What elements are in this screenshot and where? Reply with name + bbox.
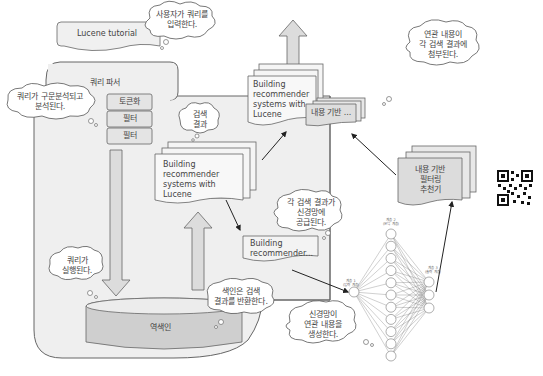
- callout-user-query: 사용자가 쿼리를 입력한다.: [152, 10, 212, 30]
- nn-node-layer-2: [386, 327, 396, 337]
- callout-net-generates: 신경망이 연관 내용을 생성한다.: [292, 310, 354, 340]
- recommender-label: 내용 기반 필터링 추천기: [398, 165, 462, 195]
- search-result-doc-text: Building recommender systems with Lucene: [163, 160, 219, 200]
- nn-node-layer-2: [386, 266, 396, 276]
- parser-step-filter-1: 필터: [107, 114, 152, 124]
- inverted-index-label: 역색인: [130, 323, 190, 333]
- nn-node-layer-2: [386, 339, 396, 349]
- parser-step-filter-2: 필터: [107, 131, 152, 141]
- nn-node-layer-2: [386, 241, 396, 251]
- nn-node-layer-1: [349, 287, 359, 297]
- layer-1-label: 계층 1 (입력 계층): [336, 279, 366, 287]
- enriched-doc-text: Building recommender systems with Lucene: [253, 80, 309, 120]
- callout-parsed: 쿼리가 구문분석되고 분석된다.: [10, 92, 90, 112]
- callout-fed: 각 검색 결과가 신경망에 공급된다.: [280, 198, 342, 228]
- nn-node-layer-2: [386, 278, 396, 288]
- nn-node-layer-3: [424, 290, 434, 300]
- callout-index-returns: 색인은 검색 결과를 반환한다.: [208, 287, 274, 307]
- nn-node-layer-3: [424, 277, 434, 287]
- attachment-label: 내용 기반 ...: [306, 108, 356, 118]
- query-input-text: Lucene tutorial: [57, 29, 157, 39]
- nn-node-layer-2: [386, 351, 396, 361]
- layer-3-label: 계층 3 (출력 계층): [418, 266, 448, 274]
- nn-node-layer-2: [386, 253, 396, 263]
- output-arrow: [279, 20, 307, 70]
- nn-node-layer-2: [386, 229, 396, 239]
- nn-node-layer-2: [386, 290, 396, 300]
- qr-code: [497, 170, 533, 206]
- nn-node-layer-2: [386, 314, 396, 324]
- parser-step-tokenize: 토큰화: [107, 97, 152, 107]
- nn-node-layer-2: [386, 302, 396, 312]
- single-result-text: Building recommender...: [250, 239, 313, 259]
- callout-search-results: 검색 결과: [182, 110, 218, 130]
- layer-2-label: 계층 2 (은닉 계층): [376, 218, 406, 226]
- nn-node-layer-3: [424, 303, 434, 313]
- callout-executed: 쿼리가 실행된다.: [52, 256, 102, 276]
- query-parser-title: 쿼리 파서: [60, 78, 150, 88]
- callout-attached: 연관 내용이 각 검색 결과에 첨부된다.: [408, 30, 478, 60]
